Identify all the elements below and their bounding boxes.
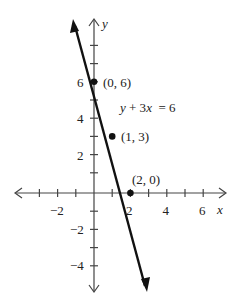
x-axis-label: x: [216, 202, 223, 217]
y-tick-label: 2: [77, 148, 84, 163]
y-tick-label: 6: [77, 75, 84, 90]
arrow-up-icon: [70, 19, 79, 33]
coordinate-plane: y x −2 2 4 6 6 4 2 −2 −4 (0, 6) (1, 3) (…: [0, 0, 239, 297]
point-label: (1, 3): [121, 129, 149, 144]
y-tick-label: −4: [70, 258, 84, 273]
arrow-down-icon: [141, 277, 150, 292]
x-tick-label: −2: [50, 203, 64, 218]
x-tick-label: 4: [163, 203, 170, 218]
x-tick-label: 6: [199, 203, 206, 218]
point-2-0: [127, 190, 134, 197]
y-axis: [89, 19, 99, 292]
equation-label: y + 3x = 6: [118, 100, 176, 115]
y-tick-label: −2: [70, 222, 84, 237]
y-tick-label: 4: [77, 111, 84, 126]
point-1-3: [109, 133, 116, 140]
point-label: (2, 0): [132, 172, 160, 187]
point-label: (0, 6): [103, 75, 131, 90]
point-0-6: [91, 79, 98, 86]
y-axis-label: y: [100, 16, 108, 31]
